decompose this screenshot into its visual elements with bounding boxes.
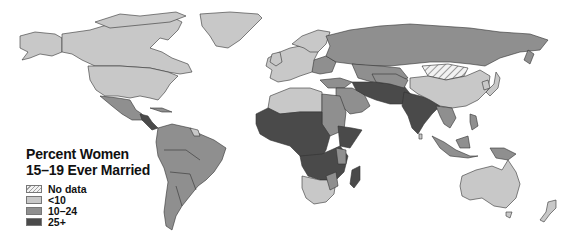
- region-caribbean: [150, 108, 172, 112]
- region-indonesia: [432, 136, 478, 158]
- region-mexico: [100, 96, 144, 120]
- region-russia: [326, 24, 548, 66]
- legend-item-10-24: 10–24: [26, 205, 150, 216]
- mid-gray-swatch-icon: [26, 207, 42, 215]
- region-greenland: [200, 12, 262, 48]
- region-papua: [490, 148, 516, 160]
- region-tasmania: [506, 212, 512, 218]
- region-usa: [88, 66, 178, 100]
- legend-title-line1: Percent Women: [26, 146, 150, 162]
- dark-gray-swatch-icon: [26, 218, 42, 226]
- region-madagascar: [350, 166, 360, 188]
- region-turkey: [320, 78, 352, 88]
- region-north-africa: [268, 88, 322, 114]
- legend-items: No data <10 10–24 25+: [26, 183, 150, 227]
- region-horn-africa: [338, 126, 362, 148]
- region-australia: [460, 160, 520, 208]
- region-sri-lanka: [419, 134, 422, 139]
- region-central-america: [140, 114, 158, 130]
- region-philippines: [470, 114, 478, 130]
- legend-item-no-data: No data: [26, 183, 150, 194]
- region-southeast-asia: [436, 106, 456, 128]
- legend-title-line2: 15–19 Ever Married: [26, 162, 150, 178]
- region-kamchatka: [524, 50, 534, 64]
- legend-label: 25+: [48, 216, 66, 228]
- region-west-africa: [256, 108, 330, 160]
- legend-item-25plus: 25+: [26, 216, 150, 227]
- region-alaska: [20, 32, 62, 60]
- map-legend: Percent Women 15–19 Ever Married No data…: [26, 146, 150, 227]
- light-gray-swatch-icon: [26, 196, 42, 204]
- hatched-swatch-icon: [26, 185, 42, 193]
- legend-item-lt10: <10: [26, 194, 150, 205]
- region-kenya-tanzania: [336, 148, 346, 164]
- region-new-zealand: [540, 200, 556, 222]
